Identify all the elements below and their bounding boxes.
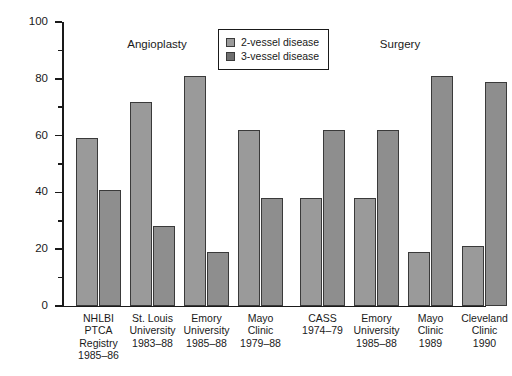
legend-swatch-3-vessel-icon <box>226 52 235 61</box>
bar <box>485 82 507 306</box>
panel-heading-surgery: Surgery <box>345 38 455 50</box>
bar <box>207 252 229 306</box>
y-tick-major <box>55 78 62 80</box>
x-category-label-line: Clinic <box>449 324 512 336</box>
panel-heading-angioplasty: Angioplasty <box>97 38 217 50</box>
y-tick-label: 0 <box>2 300 48 312</box>
bar <box>462 246 484 306</box>
x-category-label: ClevelandClinic1990 <box>449 312 512 349</box>
x-category-label-line: 1990 <box>449 337 512 349</box>
bar <box>323 130 345 306</box>
bar <box>130 102 152 306</box>
y-tick-label: 60 <box>2 130 48 142</box>
bar <box>377 130 399 306</box>
y-tick-major <box>55 305 62 307</box>
legend-label-2-vessel: 2-vessel disease <box>241 37 319 48</box>
y-tick-major <box>55 248 62 250</box>
legend-swatch-2-vessel-icon <box>226 38 235 47</box>
bar <box>354 198 376 306</box>
bar <box>238 130 260 306</box>
y-tick-label: 80 <box>2 73 48 85</box>
bar <box>184 76 206 306</box>
legend-item-3-vessel: 3-vessel disease <box>226 50 319 63</box>
y-tick-label: 40 <box>2 186 48 198</box>
bar <box>261 198 283 306</box>
legend-item-2-vessel: 2-vessel disease <box>226 36 319 49</box>
bar <box>153 226 175 306</box>
x-category-label-line: 1985–86 <box>63 349 135 361</box>
bar <box>76 138 98 306</box>
x-category-label-line: 1979–88 <box>225 337 297 349</box>
y-tick-label: 100 <box>2 16 48 28</box>
bar <box>408 252 430 306</box>
y-tick-major <box>55 21 62 23</box>
chart-legend: 2-vessel disease 3-vessel disease <box>218 29 329 70</box>
bar <box>431 76 453 306</box>
y-tick-label: 20 <box>2 243 48 255</box>
legend-label-3-vessel: 3-vessel disease <box>241 51 319 62</box>
y-tick-major <box>55 135 62 137</box>
y-tick-major <box>55 192 62 194</box>
bar <box>99 190 121 306</box>
bar <box>300 198 322 306</box>
x-category-label-line: Cleveland <box>449 312 512 324</box>
